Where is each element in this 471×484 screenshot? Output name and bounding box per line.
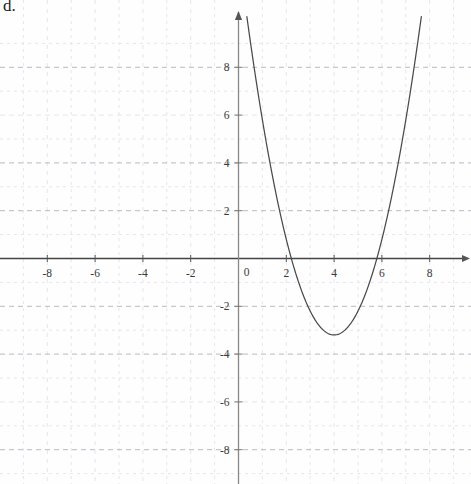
coordinate-plane: -8-6-4-202468 8642-2-4-6-8	[0, 0, 471, 484]
worksheet-page: d. -8-6-4-202468 8642-2-4-6-8	[0, 0, 471, 484]
x-axis-arrowhead	[462, 255, 470, 262]
y-axis-arrowhead	[235, 11, 242, 20]
axes	[0, 11, 470, 484]
y-tick-label: -4	[220, 348, 230, 360]
x-tick-label: 2	[283, 267, 289, 279]
x-tick-label: 6	[379, 267, 385, 279]
x-tick-label: 8	[427, 267, 433, 279]
grid-minor-lines	[0, 0, 471, 484]
y-tick-label: -6	[220, 396, 230, 408]
x-tick-label: -8	[43, 267, 53, 279]
x-tick-label: -6	[90, 267, 100, 279]
graph-svg: -8-6-4-202468 8642-2-4-6-8	[0, 0, 471, 484]
y-tick-label: 6	[224, 109, 230, 121]
x-tick-label: -2	[186, 267, 196, 279]
y-tick-label: -2	[220, 300, 230, 312]
x-tick-label: 0	[244, 266, 250, 278]
y-tick-label: 2	[224, 205, 230, 217]
x-tick-label: -4	[138, 267, 148, 279]
grid-major-lines	[0, 0, 471, 484]
y-tick-label: -8	[220, 444, 230, 456]
x-tick-label: 4	[331, 267, 337, 279]
y-tick-label: 4	[224, 157, 230, 169]
y-tick-label: 8	[224, 61, 230, 73]
